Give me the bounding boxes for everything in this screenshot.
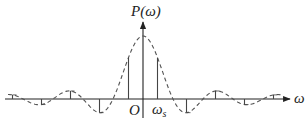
x-axis-label: ω — [294, 91, 305, 106]
omega-symbol: ω — [152, 101, 163, 117]
sample-lines — [13, 58, 278, 113]
sample-frequency-label: ωs — [152, 102, 167, 119]
origin-label: O — [129, 103, 140, 118]
y-axis-label: P(ω) — [131, 4, 161, 19]
sinc-envelope-curve — [8, 36, 283, 113]
subscript-s: s — [163, 108, 167, 119]
